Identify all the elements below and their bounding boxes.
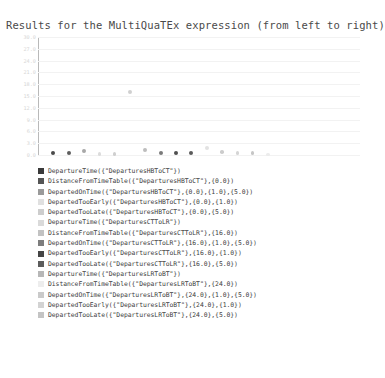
gridline bbox=[38, 155, 360, 156]
legend-item: DepartedTooLate({"DeparturesHBToCT"},{0.… bbox=[38, 207, 364, 217]
gridline bbox=[38, 108, 360, 109]
legend-swatch-icon bbox=[38, 230, 44, 236]
legend-swatch-icon bbox=[38, 292, 44, 298]
y-tick-label: 3.0 bbox=[6, 140, 36, 146]
data-point bbox=[67, 151, 71, 155]
legend-item: DepartedTooEarly({"DeparturesCTToLR"},{1… bbox=[38, 248, 364, 258]
legend-item-label: DepartedOnTime({"DeparturesHBToCT"},{0.0… bbox=[48, 187, 253, 197]
y-tick-label: 9.0 bbox=[6, 117, 36, 123]
gridline bbox=[38, 96, 360, 97]
legend-item-label: DistanceFromTimeTable({"DeparturesLRToBT… bbox=[48, 279, 238, 289]
legend-item-label: DepartedTooLate({"DeparturesLRToBT"},{24… bbox=[48, 310, 238, 320]
y-axis-tick-labels: 30.027.024.021.018.015.012.09.06.03.00.0 bbox=[2, 37, 36, 155]
legend-item-label: DepartedOnTime({"DeparturesLRToBT"},{24.… bbox=[48, 290, 257, 300]
gridline bbox=[38, 84, 360, 85]
y-tick-label: 15.0 bbox=[6, 93, 36, 99]
legend-item: DepartureTime({"DeparturesCTToLR"}) bbox=[38, 217, 364, 227]
legend-item: DepartedTooLate({"DeparturesCTToLR"},{16… bbox=[38, 259, 364, 269]
y-tick-label: 0.0 bbox=[6, 152, 36, 158]
legend-swatch-icon bbox=[38, 220, 44, 226]
data-point bbox=[82, 149, 86, 153]
data-point bbox=[220, 150, 224, 154]
legend-item: DistanceFromTimeTable({"DeparturesLRToBT… bbox=[38, 279, 364, 289]
data-point bbox=[236, 151, 240, 155]
legend-swatch-icon bbox=[38, 312, 44, 318]
legend-swatch-icon bbox=[38, 251, 44, 257]
legend-item: DepartedTooEarly({"DeparturesHBToCT"},{0… bbox=[38, 197, 364, 207]
legend-item: DistanceFromTimeTable({"DeparturesHBToCT… bbox=[38, 176, 364, 186]
gridline bbox=[38, 72, 360, 73]
legend-item-label: DepartedTooLate({"DeparturesCTToLR"},{16… bbox=[48, 259, 238, 269]
legend-item: DepartedTooEarly({"DeparturesLRToBT"},{2… bbox=[38, 300, 364, 310]
legend-item-label: DepartureTime({"DeparturesLRToBT"}) bbox=[48, 269, 181, 279]
gridline bbox=[38, 37, 360, 38]
y-tick-label: 24.0 bbox=[6, 58, 36, 64]
legend-swatch-icon bbox=[38, 261, 44, 267]
data-point bbox=[205, 146, 209, 150]
legend-item-label: DepartedTooEarly({"DeparturesLRToBT"},{2… bbox=[48, 300, 242, 310]
legend-swatch-icon bbox=[38, 240, 44, 246]
page-title: Results for the MultiQuaTEx expression (… bbox=[6, 19, 385, 31]
legend-item: DepartedOnTime({"DeparturesLRToBT"},{24.… bbox=[38, 290, 364, 300]
legend-swatch-icon bbox=[38, 271, 44, 277]
legend-item: DepartureTime({"DeparturesLRToBT"}) bbox=[38, 269, 364, 279]
plot-area bbox=[38, 37, 360, 155]
legend-swatch-icon bbox=[38, 199, 44, 205]
gridline bbox=[38, 143, 360, 144]
legend-item: DistanceFromTimeTable({"DeparturesCTToLR… bbox=[38, 228, 364, 238]
y-tick-label: 21.0 bbox=[6, 69, 36, 75]
legend-item: DepartedTooLate({"DeparturesLRToBT"},{24… bbox=[38, 310, 364, 320]
legend-item-label: DepartedTooLate({"DeparturesHBToCT"},{0.… bbox=[48, 207, 234, 217]
legend-item-label: DepartedOnTime({"DeparturesCTToLR"},{16.… bbox=[48, 238, 257, 248]
legend-item-label: DepartedTooEarly({"DeparturesCTToLR"},{1… bbox=[48, 248, 242, 258]
gridline bbox=[38, 49, 360, 50]
legend-item-label: DepartedTooEarly({"DeparturesHBToCT"},{0… bbox=[48, 197, 238, 207]
legend-item-label: DistanceFromTimeTable({"DeparturesHBToCT… bbox=[48, 176, 234, 186]
gridline bbox=[38, 131, 360, 132]
legend-item-label: DistanceFromTimeTable({"DeparturesCTToLR… bbox=[48, 228, 238, 238]
data-point bbox=[113, 152, 116, 155]
legend-item: DepartedOnTime({"DeparturesHBToCT"},{0.0… bbox=[38, 187, 364, 197]
y-tick-label: 6.0 bbox=[6, 128, 36, 134]
legend-item-label: DepartureTime({"DeparturesCTToLR"}) bbox=[48, 217, 181, 227]
y-tick-label: 27.0 bbox=[6, 46, 36, 52]
data-point bbox=[143, 148, 147, 152]
legend: DepartureTime({"DeparturesHBToCT"})Dista… bbox=[38, 166, 364, 320]
y-tick-label: 12.0 bbox=[6, 105, 36, 111]
legend-swatch-icon bbox=[38, 281, 44, 287]
gridline bbox=[38, 61, 360, 62]
data-point bbox=[98, 152, 101, 155]
legend-swatch-icon bbox=[38, 209, 44, 215]
legend-item: DepartedOnTime({"DeparturesCTToLR"},{16.… bbox=[38, 238, 364, 248]
data-point bbox=[128, 90, 132, 94]
legend-swatch-icon bbox=[38, 168, 44, 174]
legend-swatch-icon bbox=[38, 302, 44, 308]
legend-item: DepartureTime({"DeparturesHBToCT"}) bbox=[38, 166, 364, 176]
y-tick-label: 30.0 bbox=[6, 34, 36, 40]
gridline bbox=[38, 120, 360, 121]
data-point bbox=[159, 151, 163, 155]
legend-swatch-icon bbox=[38, 189, 44, 195]
legend-item-label: DepartureTime({"DeparturesHBToCT"}) bbox=[48, 166, 181, 176]
legend-swatch-icon bbox=[38, 178, 44, 184]
scatter-plot: 30.027.024.021.018.015.012.09.06.03.00.0 bbox=[0, 33, 364, 158]
y-tick-label: 18.0 bbox=[6, 81, 36, 87]
data-point bbox=[266, 153, 269, 156]
